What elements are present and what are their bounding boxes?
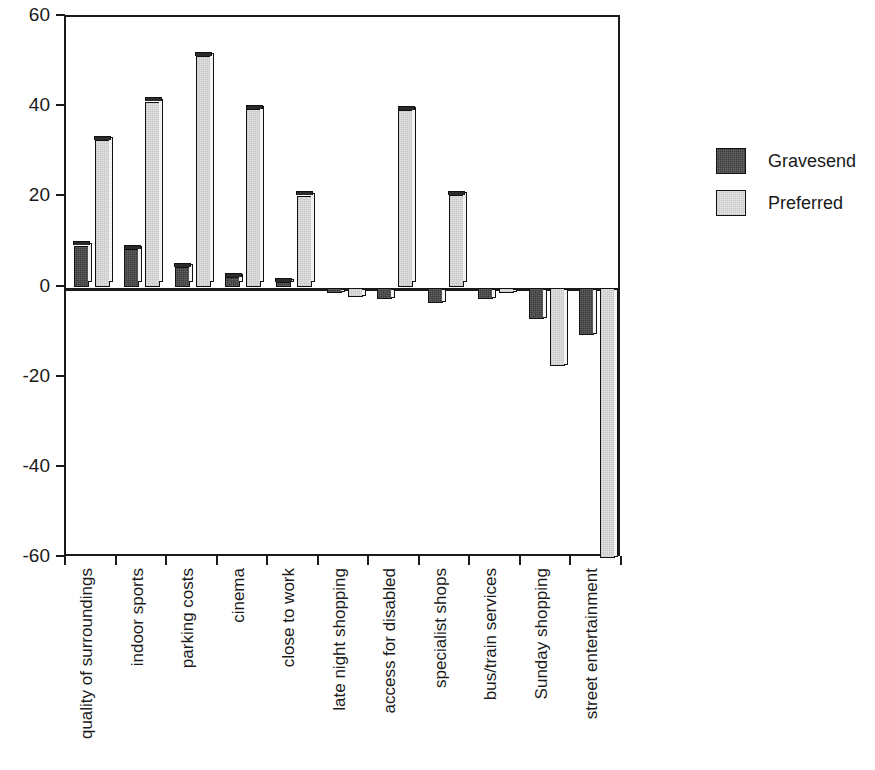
x-tick-mark — [266, 556, 268, 565]
bar-top-edge — [124, 245, 141, 249]
y-axis: 6040200-20-40-60 — [0, 0, 64, 580]
x-axis-label: access for disabled — [381, 568, 398, 714]
bar-gravesend — [428, 288, 443, 304]
bar-side-edge — [311, 193, 315, 283]
bar-gravesend — [579, 288, 594, 335]
plot-area — [64, 15, 620, 556]
bar-gravesend — [74, 246, 89, 288]
bar-preferred — [499, 288, 514, 294]
legend-swatch-gravesend — [716, 148, 746, 174]
bar-side-edge — [341, 289, 345, 293]
legend-label-preferred: Preferred — [768, 194, 843, 212]
bar-side-edge — [492, 289, 496, 298]
x-tick-mark — [317, 556, 319, 565]
bar-gravesend — [327, 288, 342, 294]
y-tick-label: 40 — [29, 95, 50, 114]
legend-item-preferred[interactable]: Preferred — [716, 182, 866, 224]
bar-top-edge — [174, 263, 191, 267]
bar-preferred — [449, 195, 464, 287]
bar-side-edge — [564, 289, 568, 366]
x-axis-label: bus/train services — [482, 568, 499, 700]
bar-side-edge — [543, 289, 547, 319]
x-axis-label: specialist shops — [432, 568, 449, 688]
bar-top-edge — [296, 191, 313, 195]
legend-item-gravesend[interactable]: Gravesend — [716, 140, 866, 182]
x-axis-label: parking costs — [179, 568, 196, 668]
bar-top-edge — [246, 105, 263, 109]
chart-legend: Gravesend Preferred — [716, 140, 866, 224]
x-tick-mark — [468, 556, 470, 565]
bar-preferred — [246, 109, 261, 287]
bar-gravesend — [124, 249, 139, 287]
bar-preferred — [398, 110, 413, 287]
bar-side-edge — [442, 289, 446, 303]
bar-side-edge — [260, 106, 264, 282]
bar-gravesend — [377, 288, 392, 299]
bar-chart: 6040200-20-40-60 quality of surroundings… — [0, 0, 875, 770]
y-tick-label: 0 — [39, 276, 50, 295]
bar-side-edge — [463, 192, 467, 282]
bar-preferred — [297, 196, 312, 288]
bar-preferred — [196, 56, 211, 287]
y-tick-label: -20 — [23, 366, 50, 385]
legend-swatch-preferred — [716, 190, 746, 216]
bar-side-edge — [362, 289, 366, 296]
bar-top-edge — [195, 52, 212, 56]
x-axis-label: close to work — [280, 568, 297, 667]
bar-top-edge — [94, 136, 111, 140]
x-tick-mark — [367, 556, 369, 565]
bar-top-edge — [398, 106, 415, 110]
x-axis-label: cinema — [230, 568, 247, 623]
x-tick-mark — [115, 556, 117, 565]
y-tick-label: 60 — [29, 5, 50, 24]
x-tick-mark — [519, 556, 521, 565]
x-axis-label: street entertainment — [583, 568, 600, 719]
bar-preferred — [145, 102, 160, 288]
bar-side-edge — [391, 289, 395, 298]
x-axis-label: indoor sports — [129, 568, 146, 666]
bar-side-edge — [614, 289, 618, 558]
x-tick-mark — [165, 556, 167, 565]
x-tick-mark — [216, 556, 218, 565]
bar-preferred — [95, 140, 110, 287]
bar-preferred — [348, 288, 363, 297]
bar-side-edge — [189, 264, 193, 282]
bar-gravesend — [225, 277, 240, 287]
bar-gravesend — [276, 282, 291, 287]
bar-preferred — [550, 288, 565, 367]
x-tick-mark — [569, 556, 571, 565]
bar-side-edge — [88, 243, 92, 283]
bar-preferred — [600, 288, 615, 559]
bar-side-edge — [593, 289, 597, 334]
bar-gravesend — [175, 267, 190, 287]
bar-top-edge — [145, 97, 162, 101]
bar-side-edge — [138, 246, 142, 282]
bar-top-edge — [225, 273, 242, 277]
bar-gravesend — [478, 288, 493, 299]
bar-top-edge — [73, 241, 90, 245]
x-axis-label: quality of surroundings — [78, 568, 95, 739]
x-tick-mark — [64, 556, 66, 565]
x-axis-label: Sunday shopping — [533, 568, 550, 699]
y-tick-label: -60 — [23, 546, 50, 565]
bar-side-edge — [109, 137, 113, 282]
legend-label-gravesend: Gravesend — [768, 152, 856, 170]
bar-top-edge — [275, 278, 292, 282]
bar-side-edge — [159, 99, 163, 283]
x-axis-label: late night shopping — [331, 568, 348, 711]
bar-side-edge — [412, 107, 416, 282]
bar-side-edge — [513, 289, 517, 293]
bar-gravesend — [529, 288, 544, 320]
chart-title-sliver — [64, 0, 620, 5]
x-tick-mark — [620, 556, 622, 565]
x-tick-mark — [418, 556, 420, 565]
y-tick-label: 20 — [29, 185, 50, 204]
y-tick-label: -40 — [23, 456, 50, 475]
bar-top-edge — [448, 191, 465, 195]
bar-side-edge — [210, 53, 214, 282]
